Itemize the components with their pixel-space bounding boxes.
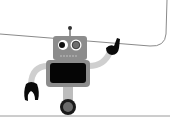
left-claw-icon bbox=[24, 82, 39, 101]
left-arm bbox=[31, 66, 48, 84]
antenna-tip bbox=[68, 26, 72, 30]
right-arm bbox=[89, 52, 110, 66]
wheel-hub bbox=[63, 102, 73, 112]
body-screen bbox=[50, 63, 86, 83]
robot-leg bbox=[63, 87, 73, 101]
right-pupil bbox=[72, 41, 80, 49]
right-claw-icon bbox=[106, 38, 120, 55]
robot-illustration bbox=[0, 0, 176, 125]
left-pupil bbox=[59, 42, 65, 48]
robot-svg bbox=[0, 0, 176, 125]
